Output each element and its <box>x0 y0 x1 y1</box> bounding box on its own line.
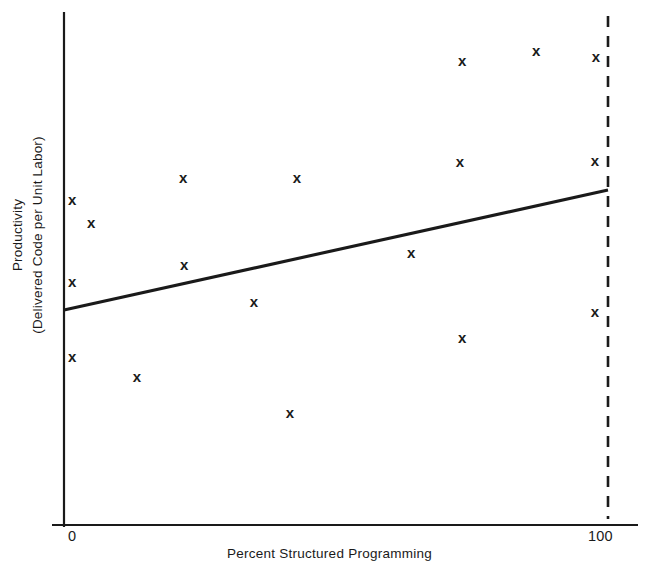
data-point-marker: x <box>286 404 295 421</box>
regression-trend-line <box>64 190 608 310</box>
plot-area: xxxxxxxxxxxxxxxxxx <box>0 0 659 573</box>
x-tick-label-0: 0 <box>68 528 76 544</box>
axes-group <box>52 12 638 527</box>
data-point-marker: x <box>68 348 77 365</box>
data-point-marker: x <box>456 153 465 170</box>
data-point-marker: x <box>179 169 188 186</box>
data-point-marker: x <box>458 52 467 69</box>
x-tick-label-100: 100 <box>588 528 613 544</box>
scatter-chart-figure: xxxxxxxxxxxxxxxxxx 0 100 Percent Structu… <box>0 0 659 573</box>
data-point-marker: x <box>133 368 142 385</box>
y-axis-title-line-1: Productivity <box>8 85 28 385</box>
data-point-marker: x <box>87 214 96 231</box>
data-point-marker: x <box>68 191 77 208</box>
y-axis-title-line-2: (Delivered Code per Unit Labor) <box>28 85 48 385</box>
x-axis-title: Percent Structured Programming <box>0 546 659 561</box>
data-point-marker: x <box>407 244 416 261</box>
y-axis-title: Productivity (Delivered Code per Unit La… <box>8 85 48 385</box>
data-point-marker: x <box>591 152 600 169</box>
data-point-marker: x <box>293 169 302 186</box>
data-point-marker: x <box>458 329 467 346</box>
data-point-marker: x <box>532 42 541 59</box>
data-point-markers: xxxxxxxxxxxxxxxxxx <box>68 42 601 421</box>
data-point-marker: x <box>591 303 600 320</box>
data-point-marker: x <box>68 273 77 290</box>
data-point-marker: x <box>250 293 259 310</box>
data-point-marker: x <box>592 48 601 65</box>
data-point-marker: x <box>180 256 189 273</box>
trend-line-group <box>64 190 608 310</box>
